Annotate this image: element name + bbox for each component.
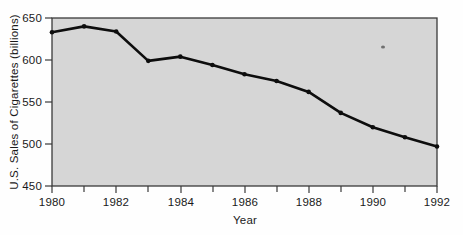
data-point-1981 <box>82 24 87 29</box>
data-point-1988 <box>306 90 311 95</box>
x-tick-label-1982: 1982 <box>103 196 129 208</box>
y-tick-label-600: 600 <box>22 54 42 66</box>
y-tick-label-500: 500 <box>22 138 42 150</box>
data-point-1985 <box>210 63 215 68</box>
chart-figure: 650 600 550 500 450 1980 <box>0 0 463 235</box>
y-axis-ticks <box>45 18 52 186</box>
data-point-1987 <box>274 79 279 84</box>
x-tick-label-1992: 1992 <box>424 196 450 208</box>
x-tick-label-1988: 1988 <box>296 196 322 208</box>
x-axis-title: Year <box>233 214 257 226</box>
data-point-1990 <box>371 125 376 130</box>
y-tick-label-450: 450 <box>22 180 42 192</box>
scan-speck <box>381 45 385 48</box>
line-chart: 650 600 550 500 450 1980 <box>0 0 463 235</box>
data-point-1992 <box>435 144 440 149</box>
data-point-1983 <box>146 59 151 64</box>
data-point-1989 <box>338 111 343 116</box>
y-tick-label-650: 650 <box>22 12 42 24</box>
x-tick-label-1986: 1986 <box>232 196 258 208</box>
data-point-1991 <box>403 135 408 140</box>
y-axis-title: U.S. Sales of Cigarettes (billions) <box>8 14 20 190</box>
x-tick-label-1984: 1984 <box>168 196 195 208</box>
data-point-1980 <box>50 30 55 35</box>
data-point-1982 <box>114 29 119 34</box>
y-tick-label-550: 550 <box>22 96 42 108</box>
x-tick-label-1990: 1990 <box>360 196 386 208</box>
y-axis-tick-labels: 650 600 550 500 450 <box>22 12 42 192</box>
x-axis-ticks <box>52 186 437 193</box>
data-point-1984 <box>178 54 183 59</box>
plot-area-background <box>52 18 437 186</box>
x-tick-label-1980: 1980 <box>39 196 65 208</box>
x-axis-tick-labels: 1980 1982 1984 1986 1988 1990 1992 <box>39 196 450 208</box>
data-point-1986 <box>242 72 247 77</box>
